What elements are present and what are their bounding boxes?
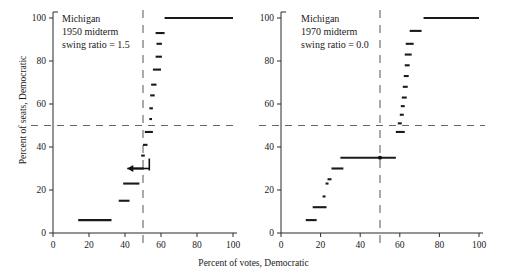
x-tick-label: 40	[120, 240, 130, 250]
y-tick-label: 0	[269, 228, 274, 238]
panel-right-annotation-block: Michigan 1970 midterm swing ratio = 0.0	[301, 12, 369, 51]
marker-dot	[378, 156, 382, 160]
seats-votes-figure: 020406080100020406080100 Michigan 1950 m…	[0, 0, 507, 280]
x-tick-label: 0	[279, 240, 284, 250]
y-tick-label: 100	[32, 13, 47, 23]
y-axis-title: Percent of seats, Democratic	[18, 45, 28, 175]
y-tick-label: 40	[265, 142, 275, 152]
y-tick-label: 40	[37, 142, 47, 152]
panel-michigan-1970: 020406080100020406080100 Michigan 1970 m…	[253, 0, 507, 280]
panel-right-subtitle: 1970 midterm	[301, 25, 369, 38]
x-tick-label: 60	[156, 240, 166, 250]
x-tick-label: 80	[435, 240, 445, 250]
panel-right-title: Michigan	[301, 12, 369, 25]
y-tick-label: 80	[265, 56, 275, 66]
y-tick-label: 100	[260, 13, 275, 23]
panel-left-annotation-block: Michigan 1950 midterm swing ratio = 1.5	[62, 12, 130, 51]
y-tick-label: 0	[41, 228, 46, 238]
panel-right-svg: 020406080100020406080100	[253, 0, 507, 280]
panel-left-subtitle: 1950 midterm	[62, 25, 130, 38]
panel-right-swing-ratio: swing ratio = 0.0	[301, 38, 369, 51]
x-tick-label: 40	[355, 240, 365, 250]
y-tick-label: 80	[37, 56, 47, 66]
panel-left-title: Michigan	[62, 12, 130, 25]
x-tick-label: 80	[192, 240, 202, 250]
y-tick-label: 60	[37, 99, 47, 109]
x-axis-title: Percent of votes, Democratic	[0, 258, 507, 268]
x-tick-label: 100	[226, 240, 241, 250]
marker-arrow-head	[127, 165, 133, 172]
x-tick-label: 20	[316, 240, 326, 250]
y-tick-label: 60	[265, 99, 275, 109]
panel-left-swing-ratio: swing ratio = 1.5	[62, 38, 130, 51]
y-tick-label: 20	[265, 185, 275, 195]
x-tick-label: 20	[84, 240, 94, 250]
x-tick-label: 60	[395, 240, 405, 250]
x-tick-label: 100	[472, 240, 487, 250]
panel-michigan-1950: 020406080100020406080100 Michigan 1950 m…	[0, 0, 253, 280]
y-tick-label: 20	[37, 185, 47, 195]
x-tick-label: 0	[51, 240, 56, 250]
